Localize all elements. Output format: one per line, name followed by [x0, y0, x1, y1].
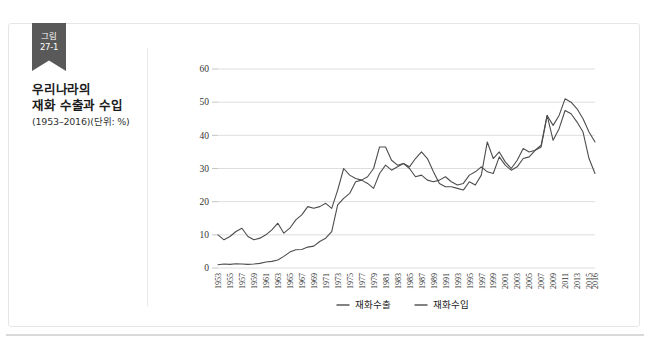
- figure-root: 그림 27-1 우리나라의 재화 수출과 수입 (1953–2016)(단위: …: [0, 0, 650, 344]
- x-axis-tick-label: 2009: [549, 273, 558, 289]
- x-axis-tick-label: 1989: [430, 273, 439, 289]
- legend-label-exports: 재화수출: [355, 299, 391, 310]
- x-axis-tick-label: 1987: [418, 273, 427, 289]
- x-axis-tick-label: 1995: [466, 273, 475, 289]
- x-axis-tick-label: 1965: [286, 273, 295, 289]
- x-axis-tick-label: 2001: [501, 273, 510, 289]
- x-axis-tick-label: 1979: [370, 273, 379, 289]
- x-axis-tick-label: 1971: [322, 273, 331, 289]
- legend-label-imports: 재화수입: [433, 299, 469, 310]
- line-chart-svg: 0102030405060 19531955195719591961196319…: [0, 0, 650, 344]
- y-axis-tick-label: 0: [204, 263, 209, 273]
- series-line-exports: [218, 99, 595, 265]
- y-axis-tick-label: 60: [200, 64, 210, 74]
- x-axis-tick-label: 1983: [394, 273, 403, 289]
- chart-legend: 재화수출재화수입: [337, 299, 469, 310]
- x-axis-tick-label: 2016: [591, 273, 600, 289]
- x-axis-tick-labels: 1953195519571959196119631965196719691971…: [214, 273, 600, 289]
- y-axis-tick-label: 40: [200, 131, 210, 141]
- x-axis-tick-label: 1991: [442, 273, 451, 289]
- x-axis-tick-label: 1973: [334, 273, 343, 289]
- x-axis-tick-label: 1959: [250, 273, 259, 289]
- series-line-imports: [218, 110, 595, 239]
- y-axis-tick-label: 10: [200, 230, 210, 240]
- x-axis-tick-label: 1961: [262, 273, 271, 289]
- x-axis-tick-label: 1955: [226, 273, 235, 289]
- chart-area: 0102030405060 19531955195719591961196319…: [0, 0, 650, 344]
- x-axis-tick-label: 1985: [406, 273, 415, 289]
- x-axis-tick-label: 2013: [573, 273, 582, 289]
- data-series-group: [218, 99, 595, 265]
- x-axis-tick-label: 1963: [274, 273, 283, 289]
- x-axis-tick-label: 1977: [358, 273, 367, 289]
- y-axis-tick-label: 20: [200, 197, 210, 207]
- x-axis-tick-label: 1981: [382, 273, 391, 289]
- x-axis-tick-label: 1975: [346, 273, 355, 289]
- x-axis-tick-label: 1993: [454, 273, 463, 289]
- gridlines-group: [212, 69, 595, 268]
- y-axis-tick-label: 50: [200, 97, 210, 107]
- y-axis-tick-label: 30: [200, 164, 210, 174]
- y-axis-tick-labels: 0102030405060: [200, 64, 210, 273]
- x-axis-tick-label: 1957: [238, 273, 247, 289]
- x-axis-tick-label: 2003: [513, 273, 522, 289]
- x-axis-tick-label: 1953: [214, 273, 223, 289]
- x-axis-tick-label: 1997: [478, 273, 487, 289]
- x-axis-tick-label: 1969: [310, 273, 319, 289]
- x-axis-tick-label: 2011: [561, 273, 570, 289]
- x-axis-tick-label: 2007: [537, 273, 546, 289]
- x-axis-tick-label: 1967: [298, 273, 307, 289]
- x-axis-tick-label: 1999: [489, 273, 498, 289]
- x-axis-tick-label: 2005: [525, 273, 534, 289]
